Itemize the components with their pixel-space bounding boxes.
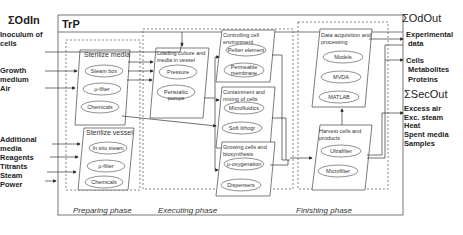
phase-label-preparing: Preparing phase [73,206,132,215]
method-label: Permeable membrane [229,64,259,76]
box-title-growing: Growing cells and biosynthesis [223,144,273,157]
output-label: Experimental [406,30,453,39]
input-label: Titrants [0,162,27,171]
method-label: Chemicals [85,179,123,185]
output-label: Proteins [408,75,438,84]
output-label: Samples [404,139,435,148]
phase-label-executing: Executing phase [158,206,217,215]
method-label: Steam box [85,68,123,74]
output-label: Excess air [404,104,441,113]
input-label: Inoculum of [0,30,43,39]
method-label: Microfluidics [224,105,264,111]
input-label: medium [0,75,29,84]
method-label: Pressure [159,69,197,75]
method-label: μ-filter [83,86,121,92]
sec-out-header: ΣSecOut [404,88,447,100]
od-out-header: ΣOdOut [402,12,441,24]
box-title-harvest: Harvest cells and products [319,128,369,141]
box-title-containment: Containment and mixing of cells [223,89,273,102]
method-label: Models [323,54,363,60]
output-label: Spent media [404,130,449,139]
box-title-loading: Loading culture and media in vessel [157,50,207,63]
input-label: cells [0,39,17,48]
method-label: Chemicals [81,104,119,110]
input-label: Steam [0,171,23,180]
method-label: Dispensers [221,182,261,188]
phase-label-finishing: Finishing phase [296,206,352,215]
input-label: Air [0,84,10,93]
method-label: In situ steam [89,145,127,151]
method-label: μ-oxygenation [224,161,264,167]
method-label: Peltier element [226,47,266,53]
input-label: Additional [0,135,37,144]
output-label: Metabolites [408,65,449,74]
input-label: Growth [0,66,26,75]
output-label: Cells [406,56,424,65]
input-label: Reagents [0,153,34,162]
input-label: Power [0,180,23,189]
box-title-sterilize-media: Sterilize media [84,52,130,59]
method-label: Peristaltic pumps [157,89,195,101]
process-title: TrP [62,18,80,30]
box-title-sterilize-vessel: Sterilize vessel [86,130,133,137]
method-label: μ-filter [87,163,125,169]
method-label: MVDA [321,74,361,80]
method-label: MATLAB [319,94,359,100]
method-label: Microfilter [318,168,358,174]
method-label: Ultrafilter [321,148,361,154]
output-label: data [408,39,423,48]
box-title-controlling: Controlling cell environment [223,32,273,45]
inputs-header: ΣOdIn [8,14,40,26]
box-title-data-acquisition: Data acquisition and processing [321,32,371,45]
output-label: Heat [404,121,420,130]
input-label: media [0,144,22,153]
method-label: Soft lithogr [222,125,262,131]
